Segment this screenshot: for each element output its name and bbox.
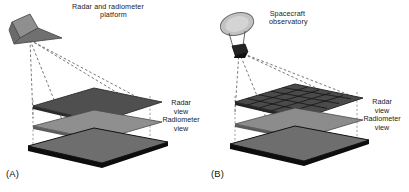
panel-a-graphics (0, 0, 204, 192)
radiometer-view-caption-b-2: view (357, 124, 407, 133)
ground-plane-a (28, 128, 168, 168)
panel-b: Spacecraft observatory Radar view Radiom… (205, 0, 409, 192)
ground-plane-b (230, 126, 369, 166)
panel-label-a: (A) (6, 168, 19, 179)
view-captions-a: Radar view Radiometer view (158, 99, 204, 133)
view-captions-b: Radar view Radiometer view (357, 98, 407, 132)
satellite-dish-icon (218, 9, 257, 58)
platform-caption-b: Spacecraft observatory (267, 10, 308, 27)
panel-label-b: (B) (211, 168, 224, 179)
figure-canvas: Radar and radiometer platform Radar view… (0, 0, 409, 192)
radiometer-view-caption-a-2: view (158, 125, 204, 134)
platform-caption-b-line2: observatory (269, 18, 308, 26)
panel-a: Radar and radiometer platform Radar view… (0, 0, 204, 192)
platform-caption-a: Radar and radiometer platform (72, 3, 144, 20)
platform-caption-a-line2: platform (83, 11, 144, 19)
panel-b-graphics (205, 0, 409, 192)
aircraft-icon (9, 14, 62, 44)
